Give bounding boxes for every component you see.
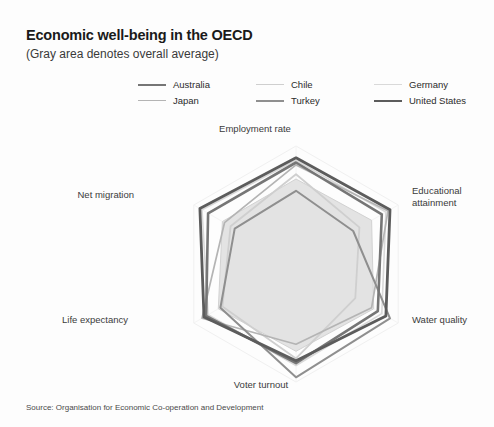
- chart-figure: Economic well-being in the OECD (Gray ar…: [0, 0, 494, 427]
- axis-label: Educationalattainment: [412, 185, 462, 208]
- axis-label: Life expectancy: [62, 314, 128, 326]
- average-area: [218, 179, 373, 351]
- axis-label: Employment rate: [219, 123, 291, 135]
- axis-label: Water quality: [412, 314, 467, 326]
- radar-plot: [0, 0, 494, 427]
- axis-label: Voter turnout: [234, 379, 288, 391]
- axis-label: Net migration: [78, 189, 135, 201]
- source-note: Source: Organisation for Economic Co-ope…: [26, 403, 263, 412]
